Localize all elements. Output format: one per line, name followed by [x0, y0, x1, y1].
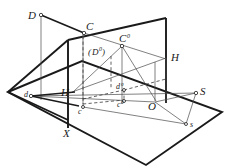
- label-H-right: H: [170, 51, 180, 63]
- label-X-upper: X: [62, 127, 71, 139]
- segment-O-to-s: [155, 102, 186, 124]
- label-D-upper: D: [27, 9, 36, 21]
- point-marker-c: [82, 106, 85, 109]
- left-plane-top-edge: [8, 40, 68, 92]
- descriptive-geometry-figure: D C C 0 ( D 0 ) H H S O X d c: [0, 0, 229, 168]
- label-C-zero: C: [119, 32, 127, 44]
- point-marker-d: [29, 94, 32, 97]
- label-H-left: H: [60, 86, 70, 98]
- label-c-zero-group: c 0: [117, 100, 124, 109]
- segment-s-to-c: [83, 107, 186, 124]
- point-marker-C0: [120, 44, 123, 47]
- label-S-upper: S: [200, 85, 206, 97]
- segment-D-C: [41, 15, 84, 33]
- point-marker-d0: [123, 89, 126, 92]
- construction-lines-group: [31, 15, 196, 124]
- label-D-zero-paren-close: ): [101, 47, 105, 57]
- point-marker-s: [185, 123, 188, 126]
- point-marker-S: [194, 91, 197, 94]
- label-C-zero-group: C 0: [119, 32, 130, 44]
- label-D-zero-group: ( D 0 ): [88, 46, 105, 57]
- label-O-upper: O: [148, 100, 156, 112]
- point-marker-D: [39, 13, 42, 16]
- label-d-lower-zero-superscript: 0: [121, 82, 124, 87]
- label-D-zero: D: [91, 47, 99, 57]
- label-c-lower: c: [78, 107, 82, 116]
- segment-d-to-O: [31, 96, 155, 102]
- label-C-upper: C: [86, 20, 94, 32]
- label-C-zero-superscript: 0: [127, 33, 130, 39]
- label-s-lower: s: [190, 120, 193, 129]
- label-d-lower: d: [24, 90, 29, 99]
- figure-canvas: D C C 0 ( D 0 ) H H S O X d c: [0, 0, 229, 168]
